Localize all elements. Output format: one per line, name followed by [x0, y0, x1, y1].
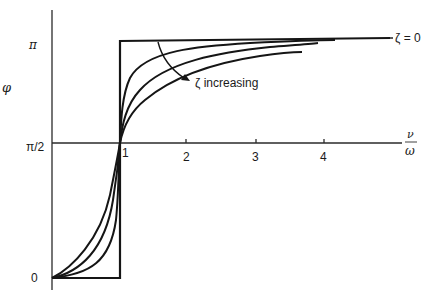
- y-label-pi: π: [28, 38, 38, 52]
- y-axis-label: φ: [2, 80, 12, 95]
- x-label-2: 2: [183, 150, 190, 164]
- x-label-4: 4: [320, 150, 327, 164]
- y-label-zero: 0: [31, 271, 38, 285]
- x-axis-label-numerator: ν: [407, 128, 414, 141]
- zeta-zero-label: ζ = 0: [395, 31, 421, 45]
- phase-response-chart: π φ π/2 0 1 2 3 4 ν ω ζ = 0 ζ increasing: [0, 0, 436, 299]
- curve-zeta-small: [52, 40, 335, 278]
- x-axis-label-denominator: ω: [405, 144, 415, 158]
- y-label-half-pi: π/2: [26, 140, 45, 154]
- zeta-increasing-label: ζ increasing: [195, 76, 258, 90]
- curve-zeta-large: [52, 52, 302, 278]
- curve-zeta-zero: [52, 38, 390, 278]
- x-label-1: 1: [122, 146, 129, 160]
- x-label-3: 3: [252, 150, 259, 164]
